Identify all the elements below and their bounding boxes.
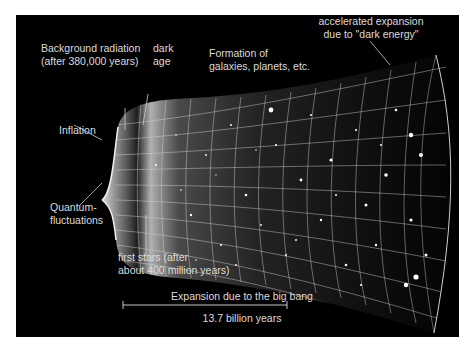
label-first-stars: first stars (after about 400 million yea…	[118, 251, 229, 276]
diagram-panel: Background radiation (after 380,000 year…	[16, 15, 459, 337]
label-formation: Formation of galaxies, planets, etc.	[209, 47, 310, 72]
label-dark-energy: accelerated expansion due to "dark energ…	[306, 15, 436, 40]
label-inflation: Inflation	[59, 124, 96, 137]
label-duration: 13.7 billion years	[123, 312, 361, 325]
label-quantum-fluctuations: Quantum- fluctuations	[50, 201, 103, 226]
label-dark-age: dark age	[153, 42, 173, 67]
label-expansion: Expansion due to the big bang	[123, 290, 361, 303]
label-background-radiation: Background radiation (after 380,000 year…	[41, 42, 140, 67]
